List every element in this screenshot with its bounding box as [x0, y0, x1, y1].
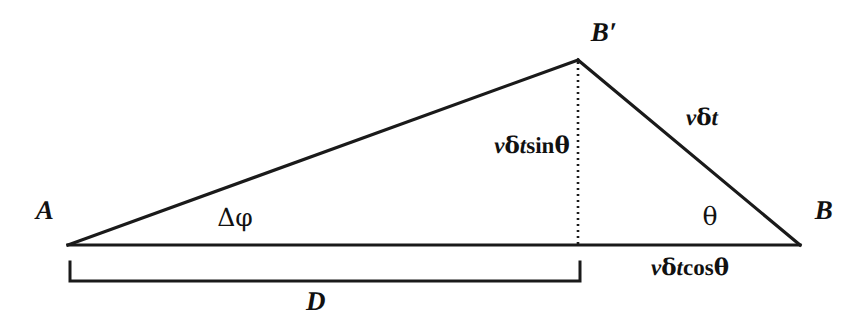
symbol-v: v	[651, 255, 661, 280]
symbol-v: v	[686, 105, 696, 130]
angle-label-delta-phi: Δφ	[217, 205, 253, 230]
figure-canvas: A B B′ Δφ θ D vδt vδtsinθ vδtcosθ	[0, 0, 861, 328]
dimension-bracket-d	[70, 262, 580, 281]
vertex-label-a: A	[36, 197, 55, 224]
diagram-svg	[0, 0, 861, 328]
dimension-label-d: D	[306, 288, 326, 315]
symbol-t: t	[712, 105, 718, 130]
symbol-delta: δ	[505, 132, 520, 159]
label-v-delta-t: vδt	[686, 106, 718, 129]
function-name-cos: cos	[683, 255, 714, 280]
edge-b-prime-to-b	[578, 60, 800, 245]
function-name-sin: sin	[526, 133, 554, 158]
angle-label-theta: θ	[702, 204, 717, 229]
symbol-delta: δ	[696, 104, 711, 131]
symbol-delta: δ	[661, 254, 676, 281]
label-v-delta-t-sin-theta: vδtsinθ	[494, 134, 569, 157]
vertex-label-b: B	[815, 197, 834, 224]
label-v-delta-t-cos-theta: vδtcosθ	[651, 256, 729, 279]
vertex-label-b-prime: B′	[591, 19, 618, 46]
symbol-theta: θ	[714, 254, 729, 281]
symbol-theta: θ	[554, 132, 569, 159]
symbol-v: v	[494, 133, 504, 158]
